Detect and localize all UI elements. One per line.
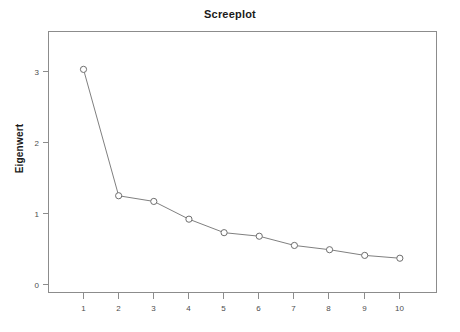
y-tick-label-0: 0 (35, 281, 40, 290)
data-point-8 (326, 247, 332, 253)
data-point-5 (221, 230, 227, 236)
data-point-10 (397, 255, 403, 261)
y-tick-label-3: 3 (35, 68, 40, 77)
data-point-6 (256, 233, 262, 239)
x-tick-label-9: 9 (362, 304, 367, 313)
data-point-1 (80, 66, 86, 72)
x-tick-label-3: 3 (151, 304, 156, 313)
screeplot-figure: Screeplot Eigenwert 3 2 1 0 (0, 0, 460, 332)
x-tick-label-6: 6 (256, 304, 261, 313)
data-point-2 (116, 193, 122, 199)
x-tick-label-1: 1 (81, 304, 86, 313)
x-tick-label-2: 2 (116, 304, 121, 313)
data-point-3 (151, 198, 157, 204)
x-tick-label-10: 10 (395, 304, 404, 313)
x-axis-ticks (84, 293, 400, 299)
scree-line (84, 69, 400, 258)
scree-markers (80, 66, 403, 261)
x-tick-label-4: 4 (186, 304, 191, 313)
y-tick-label-1: 1 (35, 210, 40, 219)
data-point-9 (362, 252, 368, 258)
x-tick-label-5: 5 (221, 304, 226, 313)
y-axis-ticks (43, 72, 48, 285)
plot-frame (49, 32, 437, 293)
x-tick-label-8: 8 (326, 304, 331, 313)
x-tick-label-7: 7 (291, 304, 296, 313)
data-point-4 (186, 216, 192, 222)
y-tick-label-2: 2 (35, 139, 40, 148)
data-point-7 (291, 242, 297, 248)
scree-plot-canvas: 3 2 1 0 1 2 3 4 5 6 7 8 9 10 (0, 0, 460, 332)
